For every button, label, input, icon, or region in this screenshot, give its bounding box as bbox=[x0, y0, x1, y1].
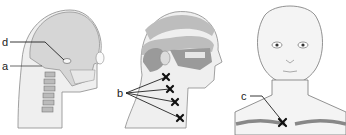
anatomy-illustration bbox=[0, 0, 346, 135]
label-b: b bbox=[117, 88, 123, 99]
label-a: a bbox=[2, 61, 8, 72]
panel-head-lateral bbox=[125, 12, 222, 128]
panel-face-frontal bbox=[235, 6, 346, 135]
anatomy-figure: d a b c bbox=[0, 0, 346, 135]
panel-skull-lateral bbox=[10, 10, 104, 128]
label-d: d bbox=[2, 37, 8, 48]
label-c: c bbox=[241, 91, 247, 102]
